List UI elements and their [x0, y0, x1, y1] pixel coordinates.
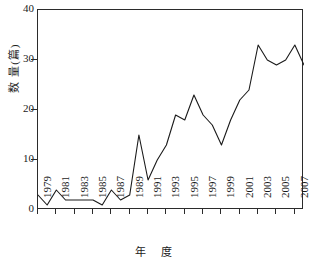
x-tick-label: 2005 [280, 176, 291, 216]
x-tick-label: 2001 [244, 176, 255, 216]
x-tick-label: 2007 [299, 176, 310, 216]
x-tick-label: 1999 [225, 176, 236, 216]
x-tick-label: 1995 [189, 176, 200, 216]
x-tick-label: 1983 [79, 176, 90, 216]
x-tick-label: 1991 [152, 176, 163, 216]
x-tick-label: 1987 [115, 176, 126, 216]
x-tick-label: 1985 [97, 176, 108, 216]
x-tick-label: 1993 [170, 176, 181, 216]
line-chart: 数 量(篇) 010203040 19791981198319851987198… [0, 0, 313, 260]
x-tick-label: 1989 [134, 176, 145, 216]
x-tick-label: 2003 [262, 176, 273, 216]
x-tick-label: 1979 [42, 176, 53, 216]
x-axis-tick-labels: 1979198119831985198719891991199319951997… [0, 0, 313, 260]
x-tick-label: 1981 [60, 176, 71, 216]
x-axis-title: 年 度 [0, 243, 313, 259]
x-tick-label: 1997 [207, 176, 218, 216]
